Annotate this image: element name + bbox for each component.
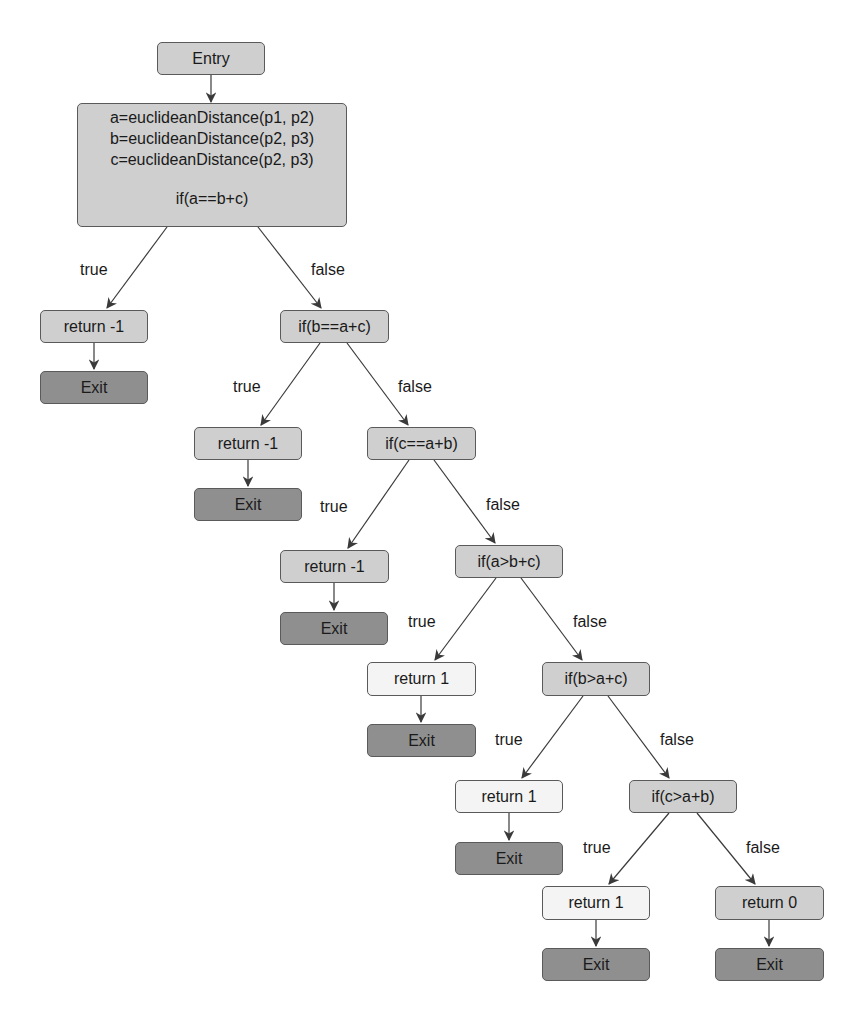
node-cond-b-gt-a-plus-c: if(b>a+c) [542, 662, 650, 696]
edge-cond4-true [435, 578, 496, 660]
node-label: Exit [235, 495, 262, 515]
edge-label-true: true [320, 497, 348, 517]
node-label: return 1 [568, 893, 623, 913]
node-label: if(c==a+b) [385, 434, 457, 454]
edge-cond5-true [522, 696, 583, 778]
node-cond-a-gt-b-plus-c: if(a>b+c) [455, 545, 563, 578]
edge-label-true: true [80, 260, 108, 280]
edge-label-false: false [660, 730, 694, 750]
node-label: Exit [756, 955, 783, 975]
node-return-1-a: return 1 [367, 662, 476, 696]
edge-init-true [107, 227, 167, 308]
init-line-c: c=euclideanDistance(p2, p3) [110, 150, 313, 171]
node-label: if(c>a+b) [651, 787, 714, 807]
node-cond-b-eq-a-plus-c: if(b==a+c) [280, 310, 389, 343]
node-exit-4: Exit [367, 724, 476, 757]
edge-label-false: false [573, 612, 607, 632]
node-exit-7: Exit [715, 948, 824, 981]
node-label: if(a>b+c) [477, 552, 540, 572]
node-label: Exit [408, 731, 435, 751]
node-exit-3: Exit [280, 612, 388, 645]
node-return-neg1-b: return -1 [194, 427, 302, 460]
node-return-1-b: return 1 [455, 780, 563, 813]
node-label: return -1 [64, 317, 124, 337]
edge-label-true: true [408, 612, 436, 632]
edge-label-true: true [233, 377, 261, 397]
node-exit-5: Exit [455, 842, 563, 875]
node-label: return 0 [742, 893, 797, 913]
node-label: if(b==a+c) [298, 317, 370, 337]
edge-label-false: false [398, 377, 432, 397]
node-label: return -1 [218, 434, 278, 454]
edge-label-true: true [495, 730, 523, 750]
node-cond-c-eq-a-plus-b: if(c==a+b) [367, 427, 476, 460]
init-line-b: b=euclideanDistance(p2, p3) [110, 129, 314, 150]
node-return-1-c: return 1 [542, 886, 650, 920]
node-label: return 1 [394, 669, 449, 689]
node-label: Exit [583, 955, 610, 975]
node-cond-c-gt-a-plus-b: if(c>a+b) [629, 780, 737, 813]
node-exit-1: Exit [40, 371, 148, 404]
node-label: return 1 [481, 787, 536, 807]
edge-label-false: false [746, 838, 780, 858]
node-entry-label: Entry [192, 49, 229, 69]
node-label: Exit [496, 849, 523, 869]
node-exit-2: Exit [194, 488, 302, 521]
init-condition: if(a==b+c) [176, 189, 248, 210]
node-label: Exit [321, 619, 348, 639]
node-return-0: return 0 [715, 886, 824, 920]
node-return-neg1-c: return -1 [280, 550, 389, 583]
node-exit-6: Exit [542, 948, 650, 981]
edge-label-false: false [311, 260, 345, 280]
edge-cond6-true [609, 813, 669, 884]
control-flow-diagram: Entry a=euclideanDistance(p1, p2) b=eucl… [0, 0, 860, 1009]
node-label: return -1 [304, 557, 364, 577]
edge-cond3-true [348, 460, 409, 548]
edge-label-true: true [583, 838, 611, 858]
node-entry: Entry [157, 42, 265, 75]
edge-cond2-true [261, 343, 320, 425]
node-return-neg1-a: return -1 [40, 310, 148, 343]
edge-label-false: false [486, 495, 520, 515]
init-line-a: a=euclideanDistance(p1, p2) [110, 108, 314, 129]
node-label: Exit [81, 378, 108, 398]
node-label: if(b>a+c) [564, 669, 627, 689]
node-init-block: a=euclideanDistance(p1, p2) b=euclideanD… [77, 103, 347, 227]
